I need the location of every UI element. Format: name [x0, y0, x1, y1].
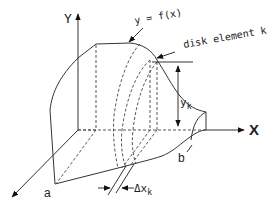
- curve-pointer-arrow: [129, 28, 143, 42]
- lower-limit-label: a: [44, 186, 51, 200]
- back-face-edges: [56, 45, 96, 184]
- height-marker: [152, 62, 193, 126]
- upper-limit-leader: [187, 145, 192, 152]
- disk-element: [113, 44, 157, 168]
- disk-element-label: disk element k: [182, 24, 267, 49]
- disk-pointer-arrow: [157, 52, 175, 58]
- x-axis-label: X: [249, 121, 259, 138]
- height-label: yk: [180, 96, 192, 111]
- curve-label: y = f(x): [133, 7, 182, 26]
- y-axis-label: Y: [64, 11, 72, 26]
- thickness-label: Δxk: [134, 182, 152, 197]
- solid-of-revolution-diagram: Y X y = f(x) disk element k: [0, 0, 276, 203]
- upper-limit-label: b: [178, 151, 185, 165]
